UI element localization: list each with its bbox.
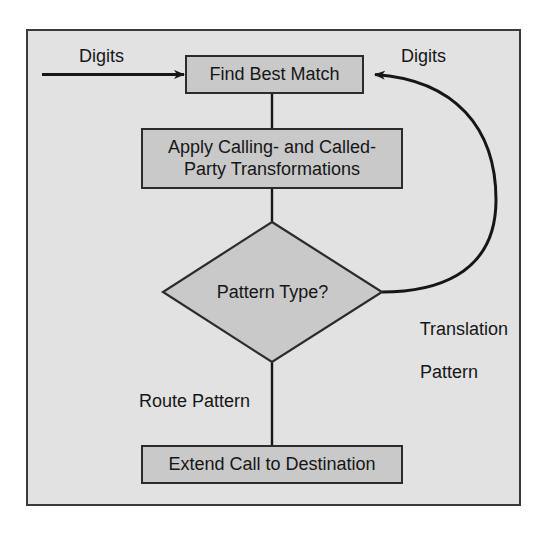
edge-label-return-digits: Digits [401, 46, 446, 67]
node-apply-transformations-line2: Party Transformations [184, 159, 360, 179]
node-apply-transformations-label: Apply Calling- and Called- Party Transfo… [168, 137, 376, 179]
node-find-best-match-label: Find Best Match [209, 64, 339, 85]
edge-label-translation-pattern: Translation Pattern [400, 298, 508, 404]
edge-label-route-pattern: Route Pattern [139, 391, 250, 412]
node-find-best-match[interactable]: Find Best Match [185, 55, 364, 94]
edge-label-input-digits: Digits [79, 46, 124, 67]
node-pattern-type[interactable]: Pattern Type? [163, 222, 382, 362]
edge-label-translation-pattern-line2: Pattern [420, 362, 478, 382]
node-pattern-type-label: Pattern Type? [217, 282, 329, 303]
node-extend-call[interactable]: Extend Call to Destination [141, 445, 403, 484]
node-pattern-type-label-wrap: Pattern Type? [163, 222, 382, 362]
flowchart-canvas: Find Best Match Apply Calling- and Calle… [0, 0, 549, 536]
node-extend-call-label: Extend Call to Destination [168, 454, 375, 475]
node-apply-transformations-line1: Apply Calling- and Called- [168, 137, 376, 157]
edge-label-translation-pattern-line1: Translation [420, 319, 508, 339]
node-apply-transformations[interactable]: Apply Calling- and Called- Party Transfo… [141, 128, 403, 189]
